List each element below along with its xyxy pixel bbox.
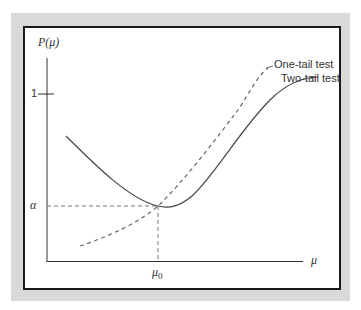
two-tail-curve xyxy=(66,77,316,207)
mu0-label: μ0 xyxy=(152,265,163,281)
legend-one-tail: One-tail test xyxy=(274,58,333,70)
alpha-label: α xyxy=(30,198,36,213)
one-tail-curve xyxy=(80,68,268,246)
legend-two-tail: Two-tail test xyxy=(281,72,340,84)
y-tick-label-one: 1 xyxy=(31,87,37,99)
y-axis-label: P(μ) xyxy=(38,35,59,50)
one-tail-leader xyxy=(266,66,273,68)
mu0-subscript: 0 xyxy=(158,271,163,281)
x-axis-label: μ xyxy=(311,253,317,268)
